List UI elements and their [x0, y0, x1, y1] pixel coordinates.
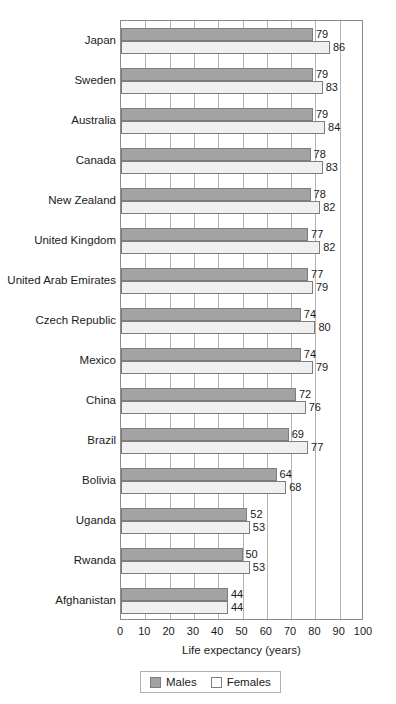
category-label: United Arab Emirates — [0, 273, 116, 287]
category-label: China — [0, 393, 116, 407]
bar-group: 7782 — [121, 228, 362, 254]
bar-group: 6977 — [121, 428, 362, 454]
legend-label-females: Females — [227, 676, 271, 688]
bar-value-male: 44 — [228, 588, 243, 601]
bar-value-male: 72 — [296, 388, 311, 401]
bar-group: 5253 — [121, 508, 362, 534]
bar-female — [121, 521, 250, 534]
category-label: Rwanda — [0, 553, 116, 567]
bar-male — [121, 428, 289, 441]
bar-male — [121, 268, 308, 281]
bar-female — [121, 281, 313, 294]
bar-value-female: 82 — [320, 241, 335, 254]
bar-value-female: 53 — [250, 561, 265, 574]
category-label: Brazil — [0, 433, 116, 447]
bar-value-female: 77 — [308, 441, 323, 454]
bar-male — [121, 228, 308, 241]
bar-value-female: 79 — [313, 281, 328, 294]
category-label: New Zealand — [0, 193, 116, 207]
bar-value-female: 44 — [228, 601, 243, 614]
bar-value-female: 82 — [320, 201, 335, 214]
x-tick-label: 0 — [117, 624, 123, 638]
x-tick-label: 60 — [260, 624, 272, 638]
x-tick-label: 10 — [138, 624, 150, 638]
bar-value-male: 79 — [313, 28, 328, 41]
bar-female — [121, 201, 320, 214]
category-label: Czech Republic — [0, 313, 116, 327]
bar-group: 6468 — [121, 468, 362, 494]
bar-group: 5053 — [121, 548, 362, 574]
bar-male — [121, 388, 296, 401]
bar-female — [121, 601, 228, 614]
bar-female — [121, 41, 330, 54]
bar-group: 7479 — [121, 348, 362, 374]
bar-male — [121, 588, 228, 601]
bar-value-male: 77 — [308, 228, 323, 241]
x-tick-label: 20 — [162, 624, 174, 638]
x-tick-label: 100 — [354, 624, 372, 638]
category-label: Bolivia — [0, 473, 116, 487]
bar-value-male: 78 — [311, 188, 326, 201]
bar-group: 7883 — [121, 148, 362, 174]
bar-male — [121, 68, 313, 81]
bar-value-male: 79 — [313, 108, 328, 121]
bar-value-male: 50 — [243, 548, 258, 561]
bar-group: 7983 — [121, 68, 362, 94]
bar-male — [121, 28, 313, 41]
bar-male — [121, 308, 301, 321]
category-axis-labels: JapanSwedenAustraliaCanadaNew ZealandUni… — [0, 20, 116, 620]
category-label: Australia — [0, 113, 116, 127]
bar-group: 7984 — [121, 108, 362, 134]
bar-female — [121, 81, 323, 94]
bar-value-female: 68 — [286, 481, 301, 494]
bar-male — [121, 508, 247, 521]
x-tick-label: 40 — [211, 624, 223, 638]
male-swatch-icon — [150, 677, 161, 688]
bar-value-male: 52 — [247, 508, 262, 521]
bar-female — [121, 121, 325, 134]
bar-female — [121, 321, 315, 334]
bar-value-male: 74 — [301, 308, 316, 321]
category-label: Canada — [0, 153, 116, 167]
bar-male — [121, 108, 313, 121]
bar-female — [121, 361, 313, 374]
bar-value-female: 83 — [323, 161, 338, 174]
bar-value-female: 84 — [325, 121, 340, 134]
bar-value-male: 69 — [289, 428, 304, 441]
bar-value-female: 86 — [330, 41, 345, 54]
female-swatch-icon — [211, 677, 222, 688]
legend-label-males: Males — [166, 676, 197, 688]
bar-male — [121, 348, 301, 361]
legend-item-males: Males — [150, 676, 197, 688]
bar-female — [121, 401, 306, 414]
bar-group: 7480 — [121, 308, 362, 334]
x-axis-tick-labels: 0102030405060708090100 — [120, 624, 363, 640]
bar-group: 7882 — [121, 188, 362, 214]
plot-area: 7986798379847883788277827779748074797276… — [120, 20, 363, 620]
bar-group: 7779 — [121, 268, 362, 294]
x-tick-label: 70 — [284, 624, 296, 638]
bar-value-male: 77 — [308, 268, 323, 281]
bar-value-female: 76 — [306, 401, 321, 414]
bar-female — [121, 161, 323, 174]
life-expectancy-bar-chart: JapanSwedenAustraliaCanadaNew ZealandUni… — [0, 0, 396, 704]
x-tick-label: 90 — [333, 624, 345, 638]
bar-value-male: 64 — [277, 468, 292, 481]
bar-value-female: 83 — [323, 81, 338, 94]
x-tick-label: 30 — [187, 624, 199, 638]
bar-value-female: 53 — [250, 521, 265, 534]
bar-male — [121, 468, 277, 481]
bar-value-male: 78 — [311, 148, 326, 161]
bar-female — [121, 561, 250, 574]
legend-item-females: Females — [211, 676, 271, 688]
category-label: United Kingdom — [0, 233, 116, 247]
bar-value-female: 80 — [315, 321, 330, 334]
x-tick-label: 50 — [235, 624, 247, 638]
bar-female — [121, 241, 320, 254]
bar-female — [121, 441, 308, 454]
bar-group: 4444 — [121, 588, 362, 614]
category-label: Sweden — [0, 73, 116, 87]
bar-value-male: 74 — [301, 348, 316, 361]
bar-value-male: 79 — [313, 68, 328, 81]
category-label: Mexico — [0, 353, 116, 367]
